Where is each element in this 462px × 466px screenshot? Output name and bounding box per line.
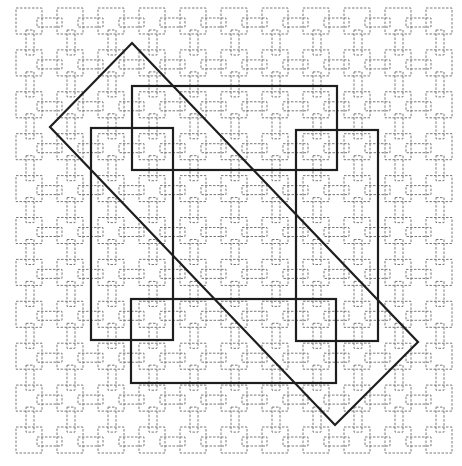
horizontal-connector [201,269,226,278]
tile-square [385,8,411,34]
tile-square [16,50,42,76]
tile-square [16,8,42,34]
horizontal-connector [37,353,62,362]
horizontal-connector [119,395,144,404]
horizontal-connector [37,269,62,278]
tile-square [221,218,247,244]
tile-square [98,8,124,34]
horizontal-connector [201,144,226,153]
horizontal-connector [201,102,226,111]
tile-square [426,134,452,160]
tile-square [98,385,124,411]
horizontal-connector [242,18,267,27]
tile-square [180,343,206,369]
tile-square [385,343,411,369]
horizontal-connector [201,353,226,362]
horizontal-connector [242,437,267,446]
overlay-shapes [50,43,418,425]
tile-square [262,134,288,160]
horizontal-connector [78,395,103,404]
tile-square [262,8,288,34]
tile-square [426,259,452,285]
horizontal-connector [242,228,267,237]
horizontal-connector [406,353,431,362]
horizontal-connector [37,144,62,153]
tile-square [385,385,411,411]
horizontal-connector [201,395,226,404]
horizontal-connector [365,395,390,404]
tile-square [98,176,124,202]
tile-square [385,301,411,327]
horizontal-connector [406,18,431,27]
horizontal-connector [37,186,62,195]
tile-square [426,92,452,118]
horizontal-connector [119,228,144,237]
horizontal-connector [283,102,308,111]
horizontal-connector [365,437,390,446]
tile-square [57,259,83,285]
tile-square [139,8,165,34]
tile-square [303,259,329,285]
tile-square [139,92,165,118]
tile-square [303,176,329,202]
tile-square [180,259,206,285]
tile-square [426,427,452,453]
tile-pattern-diagram [0,0,462,466]
horizontal-connector [78,437,103,446]
horizontal-connector [242,311,267,320]
tile-square [57,176,83,202]
tile-square [385,50,411,76]
tile-square [385,176,411,202]
horizontal-connector [406,144,431,153]
horizontal-connector [242,186,267,195]
tile-square [16,176,42,202]
tile-square [139,134,165,160]
tile-square [57,343,83,369]
tile-square [262,176,288,202]
tile-square [139,259,165,285]
horizontal-connector [242,102,267,111]
horizontal-connector [201,186,226,195]
horizontal-connector [283,18,308,27]
tile-square [385,427,411,453]
horizontal-connector [78,353,103,362]
dashed-tile-grid [16,8,452,453]
tile-square [98,301,124,327]
horizontal-connector [242,269,267,278]
tile-square [139,385,165,411]
horizontal-connector [365,18,390,27]
tile-square [426,50,452,76]
tile-square [180,176,206,202]
tile-square [303,218,329,244]
tile-square [221,343,247,369]
tile-square [98,259,124,285]
tile-square [262,259,288,285]
horizontal-connector [37,311,62,320]
tile-square [221,134,247,160]
tile-square [221,8,247,34]
horizontal-connector [37,228,62,237]
horizontal-connector [160,102,185,111]
tile-square [221,92,247,118]
tile-square [344,134,370,160]
tile-square [98,134,124,160]
horizontal-connector [242,144,267,153]
horizontal-connector [119,60,144,69]
tile-square [57,8,83,34]
tile-square [344,92,370,118]
tile-square [426,176,452,202]
horizontal-connector [119,437,144,446]
tile-square [139,427,165,453]
horizontal-connector [283,437,308,446]
tile-square [426,301,452,327]
horizontal-connector [324,228,349,237]
tile-square [139,176,165,202]
horizontal-connector [37,102,62,111]
tile-square [57,427,83,453]
tile-square [303,92,329,118]
horizontal-connector [201,18,226,27]
horizontal-connector [201,311,226,320]
tile-square [344,259,370,285]
horizontal-connector [242,395,267,404]
tile-square [303,427,329,453]
